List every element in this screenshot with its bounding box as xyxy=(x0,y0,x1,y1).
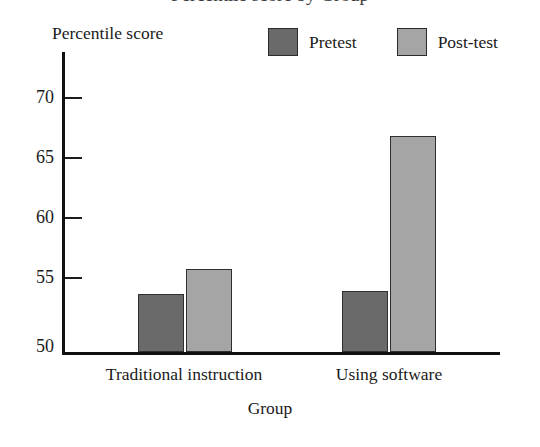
y-tick-mark-65 xyxy=(65,157,82,159)
y-tick-label-55: 55 xyxy=(8,268,54,286)
y-tick-label-65: 65 xyxy=(8,148,54,166)
y-tick-mark-55 xyxy=(65,277,82,279)
y-tick-label-70: 70 xyxy=(8,88,54,106)
bar-traditional-instruction-pretest xyxy=(138,294,184,352)
x-axis-title: Group xyxy=(0,398,540,418)
bar-using-software-pretest xyxy=(342,291,388,352)
bar-using-software-post-test xyxy=(390,136,436,352)
category-label-using-software: Using software xyxy=(318,364,460,384)
category-label-traditional-instruction: Traditional instruction xyxy=(104,364,264,384)
plot-area: 70 65 60 55 50 Traditional instruction U… xyxy=(0,0,540,447)
y-tick-label-60: 60 xyxy=(8,208,54,226)
bar-chart-figure: Percentile score by Group Percentile sco… xyxy=(0,0,540,447)
x-axis-line xyxy=(62,352,500,355)
y-tick-mark-60 xyxy=(65,217,82,219)
bar-traditional-instruction-post-test xyxy=(186,269,232,352)
y-tick-mark-70 xyxy=(65,97,82,99)
y-tick-label-50: 50 xyxy=(8,337,54,355)
